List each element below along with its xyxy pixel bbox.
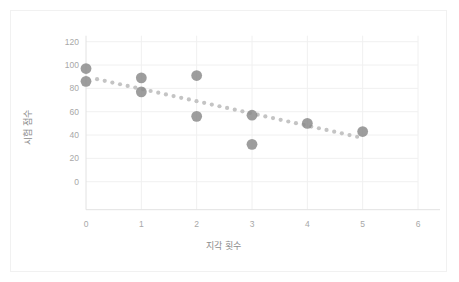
x-tick-label: 3 <box>240 219 264 229</box>
x-tick-label: 2 <box>185 219 209 229</box>
x-axis-title: 지각 횟수 <box>1 239 446 252</box>
data-points <box>81 63 368 150</box>
y-axis-title: 시험 점수 <box>21 88 34 168</box>
y-tick-label: 80 <box>53 83 79 93</box>
x-tick-label: 6 <box>406 219 430 229</box>
y-tick-label: 60 <box>53 107 79 117</box>
y-tick-label: 40 <box>53 130 79 140</box>
y-tick-label: 0 <box>53 177 79 187</box>
chart-card: 020406080100120 0123456 시험 점수 지각 횟수 <box>10 10 447 272</box>
x-tick-label: 0 <box>74 219 98 229</box>
gridlines <box>86 36 418 210</box>
x-tick-label: 1 <box>129 219 153 229</box>
trendline <box>95 77 359 139</box>
scatter-plot: 020406080100120 0123456 시험 점수 지각 횟수 <box>11 11 446 271</box>
x-tick-label: 5 <box>351 219 375 229</box>
plot-canvas <box>11 11 448 273</box>
y-tick-label: 20 <box>53 153 79 163</box>
y-tick-label: 100 <box>53 60 79 70</box>
x-tick-label: 4 <box>295 219 319 229</box>
axis-lines <box>86 36 440 210</box>
y-tick-label: 120 <box>53 37 79 47</box>
